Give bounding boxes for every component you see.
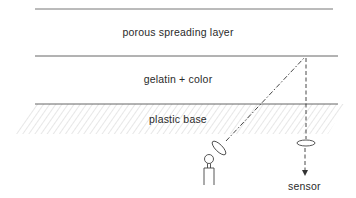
lamp-icon — [204, 155, 214, 186]
plastic-base-label: plastic base — [0, 113, 356, 125]
arrow-down-icon — [302, 170, 308, 176]
emitter-lens-icon — [210, 139, 228, 157]
detector-lens-icon — [297, 140, 315, 146]
porous-spreading-layer-label: porous spreading layer — [0, 26, 356, 38]
reflectance-diagram: porous spreading layer gelatin + color p… — [0, 0, 356, 198]
sensor-label: sensor — [288, 180, 321, 192]
gelatin-color-layer-label: gelatin + color — [0, 73, 356, 85]
